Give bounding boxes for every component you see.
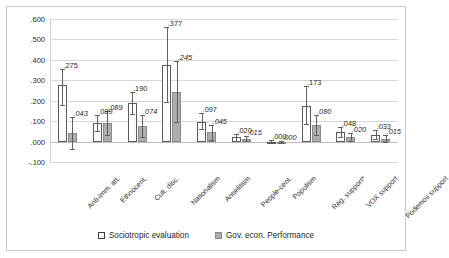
chart-legend: Sociotropic evaluationGov. econ. Perform… — [7, 231, 405, 240]
error-bar-cap-low — [95, 131, 100, 132]
error-bar-cap-low — [105, 135, 110, 136]
y-tick-label: .300 — [31, 76, 45, 85]
error-bar — [351, 133, 352, 141]
x-axis-category-labels: Anti-imm. att.Ethnocent.Cult. disc.Natio… — [50, 165, 398, 217]
error-bar-cap-low — [338, 137, 343, 138]
data-label: .097 — [203, 105, 217, 114]
white-square-icon — [98, 232, 105, 239]
error-bar-cap-low — [244, 141, 249, 142]
error-bar — [341, 127, 342, 137]
gridline — [50, 162, 398, 163]
gray-square-icon — [215, 232, 222, 239]
y-tick-label: .000 — [31, 137, 45, 146]
error-bar-cap-low — [314, 135, 319, 136]
data-label: .089 — [108, 103, 122, 112]
gridline — [50, 39, 398, 40]
data-label: .000 — [282, 133, 296, 142]
error-bar — [97, 115, 98, 131]
y-axis-spine — [50, 19, 51, 162]
error-bar-cap-low — [174, 122, 179, 123]
x-category-label-1: Ethnocent. — [108, 167, 142, 185]
y-tick-label: .600 — [31, 15, 45, 24]
gridline — [50, 101, 398, 102]
data-label: .074 — [143, 107, 157, 116]
x-category-label-text: Populism — [291, 174, 318, 201]
error-bar-cap-low — [70, 149, 75, 150]
data-label: .190 — [133, 84, 147, 93]
data-label: .020 — [352, 125, 366, 134]
error-bar — [376, 130, 377, 139]
error-bar — [72, 117, 73, 148]
error-bar-cap-low — [199, 129, 204, 130]
error-bar — [202, 113, 203, 129]
data-label: .275 — [63, 61, 77, 70]
y-tick-label: .400 — [31, 55, 45, 64]
x-category-label-9: Podemos support — [387, 167, 443, 185]
error-bar — [316, 115, 317, 136]
legend-item-0[interactable]: Sociotropic evaluation — [98, 231, 189, 240]
error-bar-cap-low — [234, 141, 239, 142]
error-bar — [132, 92, 133, 114]
error-bar-cap-low — [140, 137, 145, 138]
chart-frame: .600.500.400.300.200.100.000-.100 .275.0… — [6, 6, 406, 251]
x-category-label-6: Populism — [282, 167, 312, 185]
y-tick-label: .500 — [31, 35, 45, 44]
legend-label: Sociotropic evaluation — [109, 231, 189, 240]
error-bar-cap-low — [269, 143, 274, 144]
error-bar-cap-low — [348, 141, 353, 142]
data-label: .173 — [307, 78, 321, 87]
error-bar-cap-low — [304, 124, 309, 125]
gridline — [50, 19, 398, 20]
error-bar — [142, 115, 143, 137]
error-bar — [386, 135, 387, 142]
error-bar-cap-low — [164, 102, 169, 103]
data-label: .080 — [317, 107, 331, 116]
data-label: .377 — [168, 19, 182, 28]
y-tick-label: -.100 — [28, 158, 45, 167]
data-label: .015 — [387, 127, 401, 136]
x-category-label-4: Antielitism — [213, 167, 246, 185]
y-tick-label: .100 — [31, 117, 45, 126]
gridline — [50, 60, 398, 61]
gridline — [50, 142, 398, 143]
error-bar-cap-low — [60, 105, 65, 106]
error-bar-cap-low — [383, 142, 388, 143]
y-tick-label: .200 — [31, 96, 45, 105]
error-bar — [212, 125, 213, 140]
x-category-label-text: Cult. disc. — [152, 174, 181, 203]
gridline — [50, 80, 398, 81]
data-label: .045 — [213, 117, 227, 126]
data-label: .015 — [247, 128, 261, 137]
x-category-label-3: Nationalism — [178, 167, 216, 185]
error-bar — [306, 86, 307, 124]
error-bar-cap-low — [373, 139, 378, 140]
data-label: .245 — [178, 53, 192, 62]
x-category-label-2: Cult. disc. — [143, 167, 175, 185]
error-bar-cap-low — [279, 143, 284, 144]
x-category-label-text: Podemos support — [403, 174, 449, 220]
legend-label: Gov. econ. Performance — [226, 231, 314, 240]
error-bar — [62, 69, 63, 105]
error-bar — [167, 27, 168, 103]
error-bar-cap-low — [209, 140, 214, 141]
error-bar-cap-low — [130, 114, 135, 115]
data-label: .043 — [73, 109, 87, 118]
plot-area: .600.500.400.300.200.100.000-.100 .275.0… — [50, 19, 398, 162]
error-bar — [177, 61, 178, 122]
legend-item-1[interactable]: Gov. econ. Performance — [215, 231, 314, 240]
